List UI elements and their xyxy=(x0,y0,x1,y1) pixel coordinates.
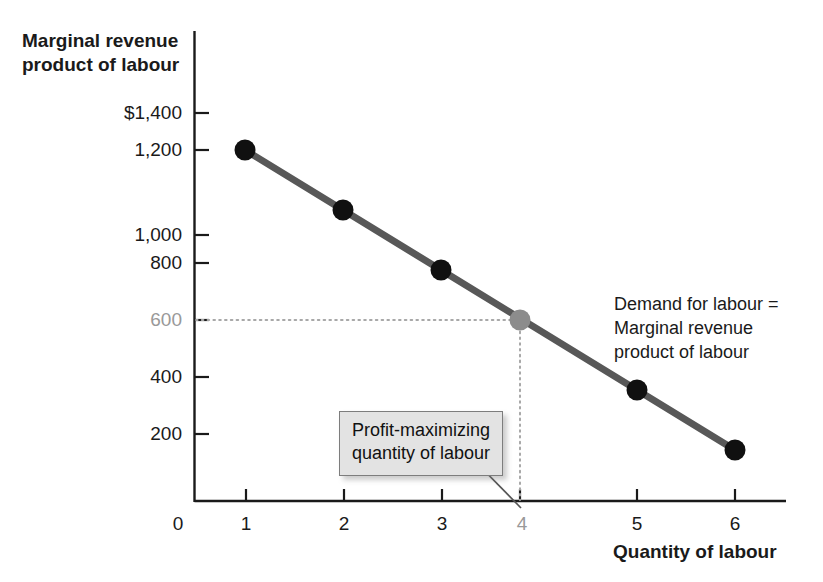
x-tick-label-4: 4 xyxy=(517,513,528,535)
data-point-4-highlight xyxy=(510,310,531,331)
y-tick-label-1400: $1,400 xyxy=(60,102,182,124)
data-point-1 xyxy=(235,140,256,161)
x-tick-label-6: 6 xyxy=(730,513,741,535)
x-tick-label-0: 0 xyxy=(173,513,184,535)
y-axis-ticks xyxy=(195,113,210,434)
demand-curve-label: Demand for labour = Marginal revenue pro… xyxy=(614,293,779,365)
y-tick-label-800: 800 xyxy=(60,252,182,274)
data-point-3 xyxy=(431,260,452,281)
figure-marginal-revenue-product-of-labour: Marginal revenue product of labour Quant… xyxy=(0,0,823,582)
x-tick-label-1: 1 xyxy=(241,513,252,535)
y-axis-title: Marginal revenue product of labour xyxy=(22,29,202,77)
chart-canvas xyxy=(0,0,823,582)
x-tick-label-3: 3 xyxy=(437,513,448,535)
y-tick-label-1000: 1,000 xyxy=(60,224,182,246)
data-point-2 xyxy=(333,200,354,221)
data-point-6 xyxy=(725,440,746,461)
x-axis-ticks xyxy=(246,489,735,501)
x-tick-label-5: 5 xyxy=(632,513,643,535)
y-tick-label-600: 600 xyxy=(60,309,182,331)
data-point-5 xyxy=(627,380,648,401)
y-tick-label-200: 200 xyxy=(60,423,182,445)
y-tick-label-1200: 1,200 xyxy=(60,139,182,161)
profit-maximizing-callout: Profit-maximizing quantity of labour xyxy=(339,411,503,476)
x-axis-title: Quantity of labour xyxy=(613,540,777,564)
y-tick-label-400: 400 xyxy=(60,366,182,388)
x-tick-label-2: 2 xyxy=(339,513,350,535)
